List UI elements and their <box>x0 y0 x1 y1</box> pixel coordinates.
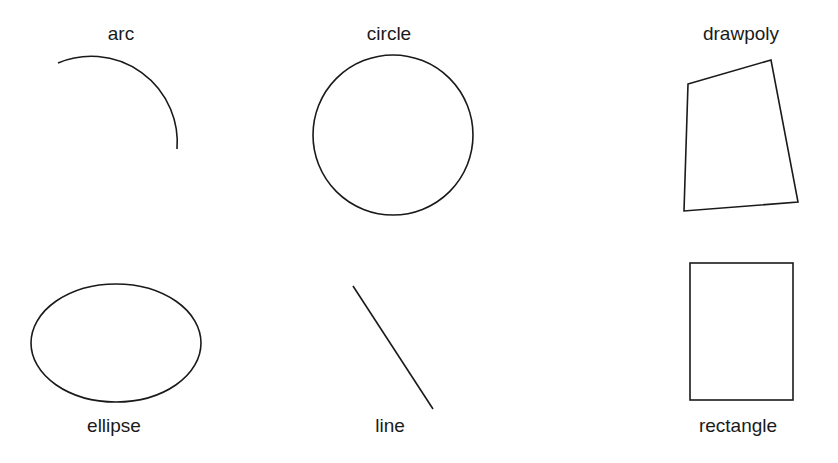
diagram-svg: arc circle drawpoly ellipse line rectang… <box>0 0 838 463</box>
arc-shape <box>58 56 177 149</box>
shapes-diagram: arc circle drawpoly ellipse line rectang… <box>0 0 838 463</box>
polygon-shape <box>684 60 798 211</box>
ellipse-label: ellipse <box>87 415 141 436</box>
ellipse-shape <box>31 284 201 402</box>
circle-shape <box>313 55 473 215</box>
drawpoly-label: drawpoly <box>703 23 780 44</box>
line-shape <box>353 286 433 409</box>
rectangle-label: rectangle <box>699 415 777 436</box>
rectangle-shape <box>690 263 793 400</box>
arc-label: arc <box>108 23 134 44</box>
line-label: line <box>375 415 405 436</box>
circle-label: circle <box>367 23 411 44</box>
